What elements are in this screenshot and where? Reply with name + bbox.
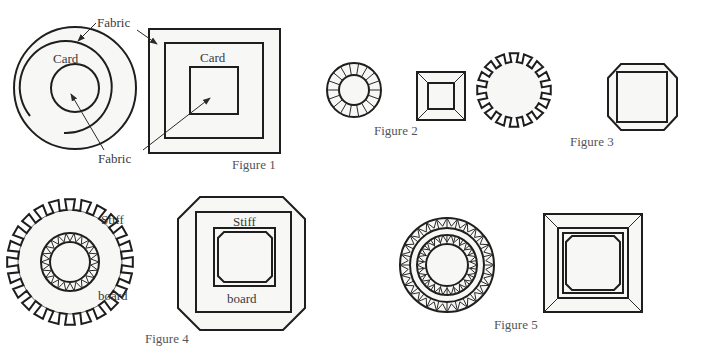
label-card-square: Card — [200, 50, 226, 65]
figure-4: Stiff board Stiff board Figure 4 — [7, 197, 305, 346]
figure-2-ring — [327, 63, 381, 117]
figure-3-caption: Figure 3 — [570, 134, 614, 149]
figure-1: Fabric Card Card Fabric Figure 1 — [14, 15, 280, 172]
figure-3-gear — [477, 53, 550, 126]
label-board-square: board — [227, 291, 257, 306]
diagram-canvas: Fabric Card Card Fabric Figure 1 Figure … — [0, 0, 714, 355]
figure-2-caption: Figure 2 — [374, 123, 418, 138]
label-board-circle: board — [98, 288, 128, 303]
label-stiff-circle: Stiff — [101, 212, 125, 227]
label-stiff-square: Stiff — [233, 214, 257, 229]
figure-2-square — [417, 72, 465, 120]
figure-5: Figure 5 — [400, 214, 642, 332]
figure-5-ring — [400, 218, 494, 312]
figure-3-octagon — [608, 64, 677, 130]
figure-1-circle — [14, 27, 136, 149]
figure-1-square — [149, 29, 280, 153]
figure-5-square — [544, 214, 642, 312]
figure-3: Figure 3 — [477, 53, 677, 149]
figure-5-caption: Figure 5 — [494, 317, 538, 332]
figure-1-caption: Figure 1 — [232, 157, 276, 172]
label-fabric-top: Fabric — [97, 15, 130, 30]
label-fabric-bottom: Fabric — [98, 151, 131, 166]
figure-4-caption: Figure 4 — [145, 331, 189, 346]
label-card-circle: Card — [53, 51, 79, 66]
figure-2: Figure 2 — [327, 63, 465, 138]
